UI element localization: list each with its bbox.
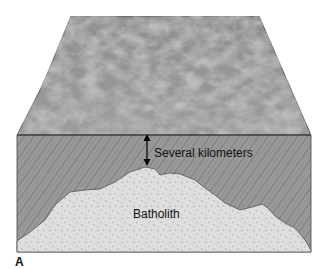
panel-label: A bbox=[15, 255, 24, 269]
block-diagram bbox=[0, 0, 326, 269]
land-surface bbox=[17, 16, 311, 135]
batholith-label: Batholith bbox=[133, 207, 180, 221]
distance-label: Several kilometers bbox=[154, 146, 253, 160]
